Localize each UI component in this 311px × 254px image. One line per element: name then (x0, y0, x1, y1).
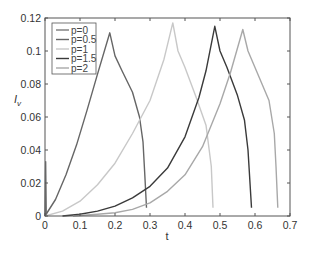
x-tick-label: 0.1 (73, 219, 88, 231)
y-tick-label: 0.04 (21, 144, 42, 156)
x-tick-label: 0.6 (248, 219, 263, 231)
x-tick-label: 0.7 (283, 219, 298, 231)
y-tick-label: 0 (35, 210, 41, 222)
y-tick-label: 0.12 (21, 12, 42, 24)
line-chart: 00.10.20.30.40.50.60.700.020.040.060.080… (0, 0, 311, 254)
y-tick-label: 0.08 (21, 78, 42, 90)
x-tick-label: 0.5 (213, 219, 228, 231)
x-tick-label: 0.3 (143, 219, 158, 231)
legend: p=0p=0.5p=1p=1.5p=2 (52, 23, 97, 74)
x-axis-label: t (165, 230, 168, 242)
y-tick-label: 0.02 (21, 177, 42, 189)
series-line-p-2 (73, 30, 278, 217)
y-tick-label: 0.06 (21, 111, 42, 123)
y-tick-label: 0.1 (26, 45, 41, 57)
x-tick-label: 0.4 (178, 219, 193, 231)
legend-label: p=2 (71, 63, 88, 74)
y-axis-label: Iv (14, 93, 22, 108)
x-tick-label: 0.2 (108, 219, 123, 231)
x-tick-label: 0 (42, 219, 48, 231)
